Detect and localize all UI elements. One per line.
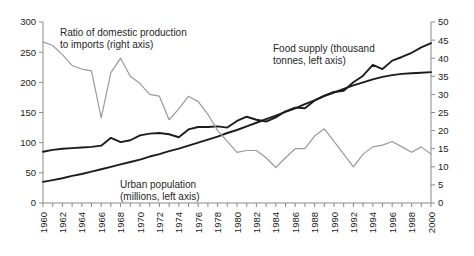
right-axis-tick-label: 20 <box>438 125 449 136</box>
left-axis-tick-label: 0 <box>31 197 36 208</box>
x-axis-tick-label: 1960 <box>38 212 49 233</box>
x-axis-tick-label: 2000 <box>426 212 437 233</box>
right-axis-tick-label: 30 <box>438 89 449 100</box>
left-axis-tick-label: 200 <box>20 77 36 88</box>
left-axis: 050100150200250300 <box>20 16 43 208</box>
x-axis-tick-label: 1980 <box>232 212 243 233</box>
left-axis-tick-label: 250 <box>20 47 36 58</box>
right-axis-tick-label: 35 <box>438 71 449 82</box>
chart-annotations: Ratio of domestic productionto imports (… <box>60 27 375 202</box>
x-axis-tick-label: 1978 <box>212 212 223 233</box>
series-line <box>43 43 431 152</box>
x-axis-tick-label: 1966 <box>96 212 107 233</box>
x-axis: 1960196219641966196819701972197419761978… <box>38 203 437 233</box>
x-axis-tick-label: 1974 <box>173 212 184 233</box>
series-line <box>43 72 431 182</box>
x-axis-tick-label: 1992 <box>348 212 359 233</box>
food-supply-annotation: tonnes, left axis) <box>273 55 346 66</box>
x-axis-tick-label: 1996 <box>387 212 398 233</box>
x-axis-tick-label: 1970 <box>135 212 146 233</box>
right-axis-tick-label: 45 <box>438 35 449 46</box>
right-axis-tick-label: 15 <box>438 143 449 154</box>
series-line <box>43 42 431 168</box>
right-axis-tick-label: 40 <box>438 53 449 64</box>
right-axis: 05101520253035404550 <box>431 16 449 208</box>
left-axis-tick-label: 150 <box>20 107 36 118</box>
right-axis-tick-label: 25 <box>438 107 449 118</box>
x-axis-tick-label: 1990 <box>329 212 340 233</box>
x-axis-tick-label: 1984 <box>270 212 281 233</box>
ratio-annotation: to imports (right axis) <box>60 39 153 50</box>
series-lines <box>43 42 431 182</box>
x-axis-tick-label: 1976 <box>193 212 204 233</box>
x-axis-tick-label: 1982 <box>251 212 262 233</box>
right-axis-tick-label: 0 <box>438 197 443 208</box>
left-axis-tick-label: 100 <box>20 137 36 148</box>
left-axis-tick-label: 300 <box>20 16 36 27</box>
right-axis-tick-label: 10 <box>438 161 449 172</box>
urban-population-annotation: (millions, left axis) <box>120 191 199 202</box>
left-axis-tick-label: 50 <box>25 167 36 178</box>
urban-population-annotation: Urban population <box>120 179 196 190</box>
x-axis-tick-label: 1972 <box>154 212 165 233</box>
ratio-annotation: Ratio of domestic production <box>60 27 187 38</box>
x-axis-tick-label: 1988 <box>309 212 320 233</box>
x-axis-tick-label: 1964 <box>76 212 87 233</box>
x-axis-tick-label: 1986 <box>290 212 301 233</box>
x-axis-tick-label: 1962 <box>57 212 68 233</box>
x-axis-tick-label: 1994 <box>367 212 378 233</box>
right-axis-tick-label: 5 <box>438 179 443 190</box>
x-axis-tick-label: 1968 <box>115 212 126 233</box>
x-axis-tick-label: 1998 <box>406 212 417 233</box>
right-axis-tick-label: 50 <box>438 16 449 27</box>
food-supply-annotation: Food supply (thousand <box>273 43 375 54</box>
chart-container: 050100150200250300 05101520253035404550 … <box>0 0 474 256</box>
line-chart: 050100150200250300 05101520253035404550 … <box>0 0 474 256</box>
